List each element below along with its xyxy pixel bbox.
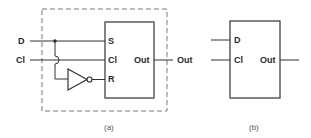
figure-b: D Cl Out (b) xyxy=(211,21,299,132)
d-latch-diagram: D Cl S Cl R Out Out (a) D Cl Out (b) xyxy=(0,0,311,138)
pin-cl-label-b: Cl xyxy=(234,55,243,65)
pin-s-label: S xyxy=(108,36,114,46)
pin-r-label: R xyxy=(108,74,115,84)
pin-d-label-b: D xyxy=(234,35,241,45)
figure-a: D Cl S Cl R Out Out (a) xyxy=(16,9,193,132)
input-d-label: D xyxy=(18,36,25,46)
pin-out-label-b: Out xyxy=(260,55,276,65)
pin-out-label: Out xyxy=(134,55,150,65)
pin-cl-label: Cl xyxy=(108,55,117,65)
caption-a: (a) xyxy=(104,123,114,132)
input-cl-label: Cl xyxy=(16,55,25,65)
caption-b: (b) xyxy=(249,123,259,132)
output-label-a: Out xyxy=(177,55,193,65)
inverter-bubble xyxy=(87,77,92,82)
inverter-triangle xyxy=(68,69,87,90)
